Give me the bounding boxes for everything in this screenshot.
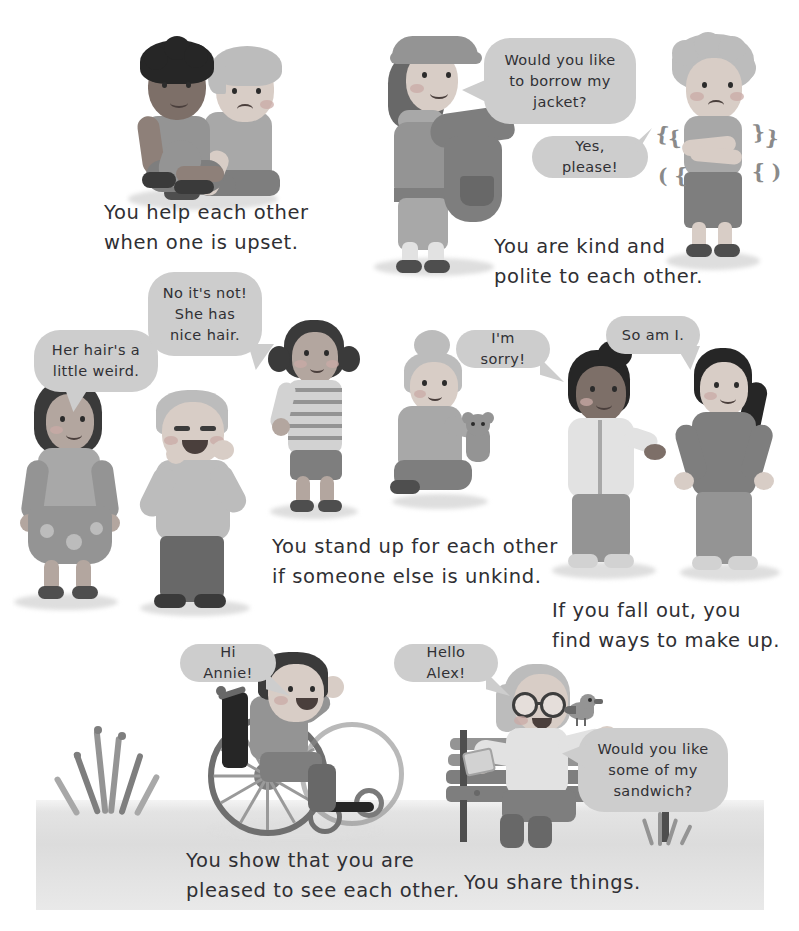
bubble-hello-alex: Hello Alex! bbox=[394, 644, 498, 682]
bird bbox=[564, 694, 604, 726]
caption-kind-polite: You are kind and polite to each other. bbox=[494, 232, 744, 292]
shiver-mark-left-3: ( { bbox=[658, 164, 687, 188]
shiver-mark-right-2: } bbox=[764, 125, 780, 151]
sandwich bbox=[462, 747, 496, 777]
boy-in-wheelchair bbox=[196, 660, 396, 840]
ground-shadow bbox=[14, 594, 118, 610]
laughing-boy bbox=[130, 390, 260, 620]
bubble-sandwich: Would you like some of my sandwich? bbox=[578, 728, 728, 812]
illustration-page: You help each other when one is upset. bbox=[0, 0, 799, 931]
grass-tuft-right bbox=[636, 812, 706, 848]
ground-shadow bbox=[270, 504, 358, 519]
teasing-girl bbox=[10, 380, 130, 612]
caption-greeting: You show that you are pleased to see eac… bbox=[186, 846, 466, 906]
caption-stand-up: You stand up for each other if someone e… bbox=[272, 532, 572, 592]
caption-sharing: You share things. bbox=[464, 868, 684, 898]
caption-make-up: If you fall out, you find ways to make u… bbox=[552, 596, 799, 656]
bubble-her-hair: Her hair's a little weird. bbox=[34, 330, 158, 392]
shiver-mark-left-2: { bbox=[667, 125, 682, 150]
accepting-girl bbox=[672, 344, 792, 584]
glasses-icon bbox=[512, 692, 538, 718]
apologising-girl bbox=[546, 348, 666, 580]
grass-tuft-left bbox=[44, 730, 174, 820]
ground-shadow bbox=[392, 494, 488, 509]
caption-help: You help each other when one is upset. bbox=[104, 198, 344, 258]
bubble-im-sorry: I'm sorry! bbox=[456, 330, 550, 368]
shiver-mark-right-3: { ) bbox=[752, 160, 781, 184]
offered-jacket bbox=[430, 110, 520, 230]
bubble-borrow-jacket: Would you like to borrow my jacket? bbox=[484, 38, 636, 124]
shiver-mark-right-1: } bbox=[751, 119, 766, 144]
bubble-yes-please: Yes, please! bbox=[532, 136, 648, 178]
defending-girl bbox=[262, 320, 372, 520]
bubble-hi-annie: Hi Annie! bbox=[180, 644, 276, 682]
bubble-no-its-not: No it's not! She has nice hair. bbox=[148, 272, 262, 356]
